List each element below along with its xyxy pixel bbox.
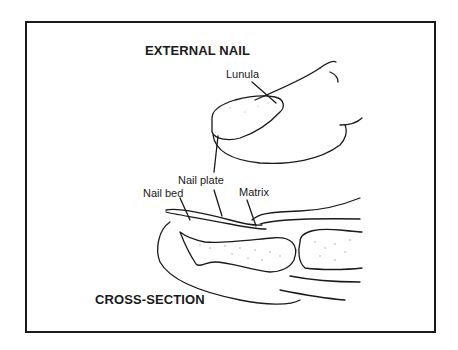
label-nail-bed: Nail bed <box>143 187 183 199</box>
heading-external-nail: EXTERNAL NAIL <box>145 43 250 58</box>
matrix-leader <box>247 200 256 226</box>
heading-cross-section: CROSS-SECTION <box>95 292 205 307</box>
label-matrix: Matrix <box>239 186 269 198</box>
nail-plate-leader-lower <box>214 190 222 216</box>
label-lunula: Lunula <box>226 68 259 80</box>
cross-section-drawing <box>158 198 362 304</box>
label-nail-plate: Nail plate <box>178 174 224 186</box>
